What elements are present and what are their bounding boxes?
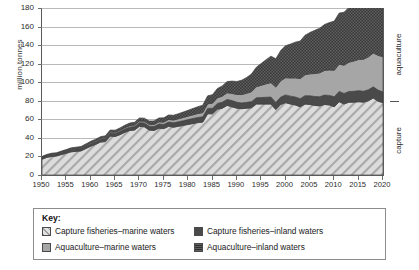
y-tick-mark [38,119,42,120]
y-tick-mark [38,27,42,28]
legend-title: Key: [42,213,61,223]
legend-item: Capture fisheries–marine waters [42,226,174,236]
legend-item: Capture fisheries–inland waters [194,226,323,236]
y-tick-label: 20 [8,152,34,160]
y-tick-label: 100 [8,78,34,86]
y-tick-mark [38,45,42,46]
y-tick-mark [38,8,42,9]
y-tick-label: 40 [8,134,34,142]
y-tick-label: 160 [8,23,34,31]
chart-area: million tonnes 180160140120100806040200 [0,0,419,192]
y-tick-mark [38,82,42,83]
y-tick-mark [38,138,42,139]
y-tick-label: 60 [8,115,34,123]
right-axis-divider-tick [390,101,399,102]
y-tick-mark [38,156,42,157]
y-tick-label: 120 [8,60,34,68]
dark-dotted-swatch [194,243,203,252]
right-axis-labels: aquaculture capture [384,8,418,175]
y-tick-mark [38,175,42,176]
chart-screenshot: million tonnes 180160140120100806040200 [0,0,419,270]
y-tick-mark [38,64,42,65]
y-tick-label: 140 [8,41,34,49]
legend-item: Aquaculture–marine waters [42,242,156,252]
dark-solid-swatch [194,227,203,236]
legend-box: Key: Capture fisheries–marine watersCapt… [33,208,386,260]
y-tick-label: 0 [8,171,34,179]
hatch-swatch [42,227,51,236]
legend-item-label: Aquaculture–inland waters [207,242,305,252]
y-tick-label: 180 [8,4,34,12]
plot-region [41,8,384,176]
right-label-aquaculture: aquaculture [394,19,403,91]
x-tick-label: 2020 [367,180,397,189]
gray-solid-swatch [42,243,51,252]
legend-item: Aquaculture–inland waters [194,242,305,252]
right-label-capture: capture [394,105,403,177]
legend-item-label: Capture fisheries–inland waters [207,226,323,236]
stacked-area-series [42,8,383,175]
legend-item-label: Aquaculture–marine waters [55,242,156,252]
legend-item-label: Capture fisheries–marine waters [55,226,174,236]
y-axis-ticks: 180160140120100806040200 [6,0,34,176]
y-tick-label: 80 [8,97,34,105]
y-tick-mark [38,101,42,102]
